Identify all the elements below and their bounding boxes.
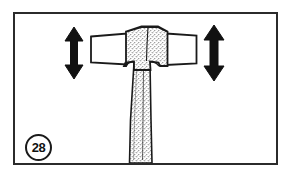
figure-illustration: 28 — [0, 0, 293, 181]
figure-number-badge: 28 — [25, 134, 52, 161]
figure-number-label: 28 — [32, 141, 45, 154]
figure-frame-border — [13, 12, 278, 165]
